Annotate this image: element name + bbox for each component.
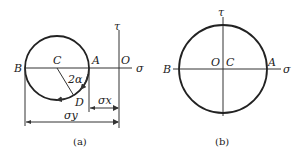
caption-a: (a) bbox=[73, 136, 87, 147]
point-a-label-b: A bbox=[267, 56, 276, 69]
point-b-label: B bbox=[13, 62, 22, 75]
figure-b: B O C A σ τ (b) bbox=[162, 6, 291, 147]
sigma-y-label: σy bbox=[64, 109, 79, 122]
angle-2alpha-label: 2α bbox=[67, 73, 83, 86]
origin-o-label: O bbox=[121, 54, 130, 67]
sigma-axis-label-b: σ bbox=[283, 63, 291, 76]
mohr-circle-figure: B C A O D σ τ 2α σx σy (a) B O C A σ τ (… bbox=[0, 0, 304, 160]
figure-a: B C A O D σ τ 2α σx σy (a) bbox=[13, 20, 144, 147]
tau-axis-label-a: τ bbox=[114, 20, 121, 33]
point-a-label: A bbox=[91, 54, 100, 67]
caption-b: (b) bbox=[215, 136, 229, 147]
point-b-label-b: B bbox=[162, 63, 171, 76]
origin-o-label-b: O bbox=[211, 56, 220, 69]
sigma-axis-label-a: σ bbox=[136, 62, 144, 75]
sigma-x-label: σx bbox=[98, 94, 113, 107]
point-c-label-b: C bbox=[226, 56, 235, 69]
tau-axis-label-b: τ bbox=[218, 6, 225, 19]
point-c-label: C bbox=[53, 54, 62, 67]
point-d-label: D bbox=[74, 96, 84, 109]
